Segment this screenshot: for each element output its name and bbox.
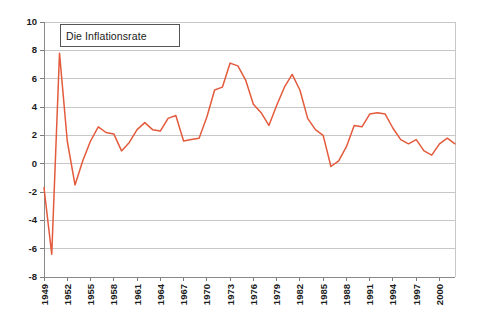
series-line-inflationsrate: [44, 53, 455, 254]
x-axis-tick-label: 1955: [85, 283, 96, 305]
x-axis-tick-label: 1970: [201, 284, 212, 305]
x-axis-tick-labels: 1949195219551958196119641967197019731976…: [39, 283, 445, 305]
chart-canvas: 1086420-2-4-6-8 194919521955195819611964…: [0, 0, 480, 323]
x-axis-tick-label: 2000: [434, 284, 445, 305]
y-axis-tick-label: 0: [32, 158, 37, 169]
x-axis-tick-label: 1997: [411, 284, 422, 305]
chart-title-box: Die Inflationsrate: [60, 24, 180, 47]
x-axis-tick-label: 1982: [294, 284, 305, 305]
inflation-rate-chart: 1086420-2-4-6-8 194919521955195819611964…: [0, 0, 480, 323]
y-axis-tick-label: -2: [29, 186, 37, 197]
y-axis-tick-label: 2: [32, 129, 37, 140]
x-axis-tick-label: 1961: [132, 283, 143, 305]
y-axis-tick-label: -6: [29, 243, 37, 254]
x-axis-tick-marks: [44, 277, 439, 281]
x-axis-tick-label: 1964: [155, 283, 166, 305]
x-axis-tick-label: 1973: [225, 284, 236, 305]
x-axis-tick-label: 1958: [108, 284, 119, 305]
x-axis-tick-label: 1979: [271, 284, 282, 305]
x-axis-tick-label: 1988: [341, 284, 352, 305]
x-axis-tick-label: 1949: [39, 284, 50, 305]
x-axis-tick-label: 1991: [364, 283, 375, 305]
x-axis-tick-label: 1994: [387, 283, 398, 305]
y-axis-tick-label: 8: [32, 44, 37, 55]
y-axis-tick-labels: 1086420-2-4-6-8: [26, 16, 37, 282]
gridlines: [40, 22, 455, 277]
axis-lines: [44, 22, 455, 277]
x-axis-tick-label: 1985: [318, 283, 329, 305]
x-axis-tick-label: 1952: [62, 284, 73, 305]
chart-title-label: Die Inflationsrate: [66, 30, 147, 42]
x-axis-tick-label: 1976: [248, 284, 259, 305]
x-axis-tick-label: 1967: [178, 284, 189, 305]
y-axis-tick-label: -8: [29, 271, 37, 282]
data-series-line: [44, 53, 455, 254]
y-axis-tick-label: 10: [26, 16, 37, 27]
y-axis-tick-label: 4: [32, 101, 38, 112]
y-axis-tick-label: 6: [32, 73, 37, 84]
y-axis-tick-label: -4: [29, 214, 38, 225]
